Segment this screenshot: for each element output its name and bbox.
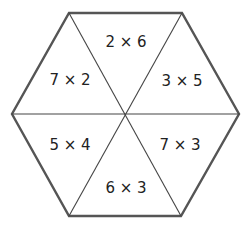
segment-upper-left-label: 7 × 2 (49, 71, 90, 89)
hexagon-diagram: 2 × 6 3 × 5 7 × 3 6 × 3 5 × 4 7 × 2 (0, 0, 249, 230)
segment-bottom-label: 6 × 3 (105, 179, 146, 197)
segment-lower-left-label: 5 × 4 (49, 136, 90, 154)
segment-lower-right-label: 7 × 3 (159, 136, 200, 154)
segment-top-label: 2 × 6 (105, 33, 146, 51)
segment-upper-right-label: 3 × 5 (161, 72, 202, 90)
